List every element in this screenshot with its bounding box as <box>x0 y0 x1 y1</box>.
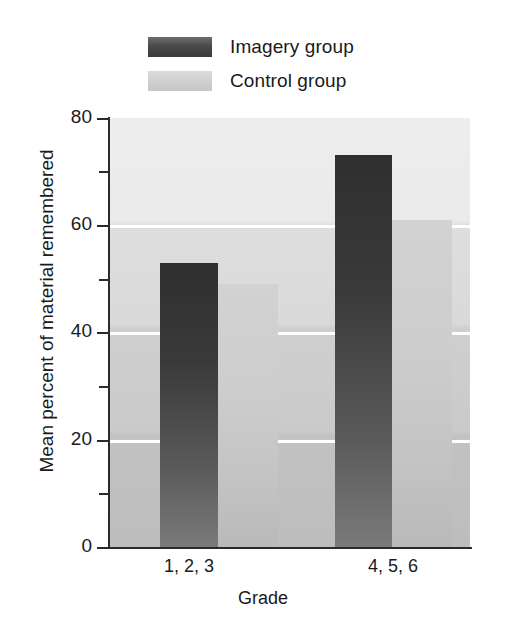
y-tick-40 <box>97 332 108 334</box>
y-tick-30 <box>99 386 108 388</box>
y-tick-80 <box>97 118 108 120</box>
y-axis-title: Mean percent of material remembered <box>36 121 58 501</box>
legend-label-imagery-group: Imagery group <box>230 36 354 58</box>
bar-chart-figure: Imagery group Control group 80 60 40 <box>0 0 526 623</box>
chart-legend: Imagery group Control group <box>148 32 448 100</box>
plot-area <box>110 118 470 547</box>
y-tick-label-0: 0 <box>32 535 92 557</box>
legend-item-control-group: Control group <box>148 66 448 96</box>
bar-imagery-grade-1-2-3 <box>160 263 218 547</box>
x-tick-label-grade-4-5-6: 4, 5, 6 <box>333 556 453 577</box>
y-tick-70 <box>99 171 108 173</box>
legend-swatch-imagery-group <box>148 37 212 57</box>
x-tick-label-grade-1-2-3: 1, 2, 3 <box>129 556 249 577</box>
y-tick-10 <box>99 493 108 495</box>
y-tick-0 <box>97 547 108 549</box>
bar-imagery-grade-4-5-6 <box>335 155 392 547</box>
y-tick-20 <box>97 440 108 442</box>
y-tick-50 <box>99 279 108 281</box>
y-axis-line <box>108 117 110 549</box>
bar-control-grade-1-2-3 <box>218 284 278 547</box>
legend-item-imagery-group: Imagery group <box>148 32 448 62</box>
legend-label-control-group: Control group <box>230 70 346 92</box>
y-tick-60 <box>97 225 108 227</box>
x-axis-title: Grade <box>0 588 526 609</box>
bar-control-grade-4-5-6 <box>392 220 452 547</box>
legend-swatch-control-group <box>148 71 212 91</box>
x-axis-line <box>108 547 472 549</box>
